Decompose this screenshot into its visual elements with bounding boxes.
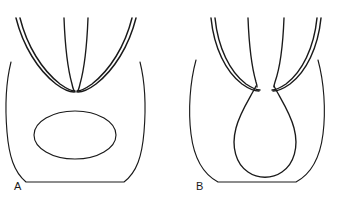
anatomical-diagram: A B bbox=[0, 0, 342, 206]
figure-background bbox=[0, 0, 342, 206]
figure-container: A B bbox=[0, 0, 342, 206]
panel-b-label: B bbox=[196, 180, 204, 192]
panel-a-label: A bbox=[14, 180, 22, 192]
